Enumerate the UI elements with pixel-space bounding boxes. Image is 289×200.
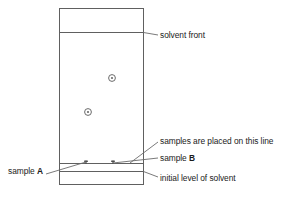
spot-sample-a (85, 109, 92, 116)
label-sample-a: sample A (8, 166, 43, 176)
leader-line-solvent-front (144, 33, 159, 36)
label-sample-a-prefix: sample (8, 166, 37, 176)
leader-line-initial-level (144, 172, 159, 178)
label-sample-b-letter: B (189, 153, 195, 163)
chromatography-diagram (0, 0, 289, 200)
label-samples-placed-on-this-line: samples are placed on this line (160, 136, 273, 146)
label-sample-b: sample B (160, 153, 195, 163)
figure-canvas: solvent front samples are placed on this… (0, 0, 289, 200)
label-initial-level-of-solvent: initial level of solvent (160, 173, 236, 183)
label-sample-b-prefix: sample (160, 153, 189, 163)
spot-sample-b (109, 75, 116, 82)
chromatography-chamber-outline (60, 9, 144, 185)
label-solvent-front: solvent front (160, 30, 205, 40)
label-sample-a-letter: A (37, 166, 43, 176)
